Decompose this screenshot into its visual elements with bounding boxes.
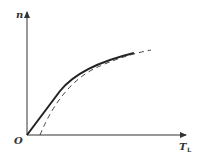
speed-torque-diagram: n O T L (0, 0, 198, 158)
origin-label: O (14, 135, 23, 146)
y-axis-label: n (16, 9, 23, 20)
x-axis-subscript: L (187, 146, 192, 153)
dashed-curve (40, 50, 151, 135)
solid-curve (27, 53, 134, 135)
